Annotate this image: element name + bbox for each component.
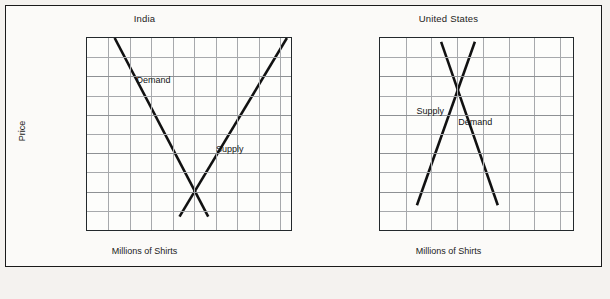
axis-label-x-india: Millions of Shirts bbox=[0, 246, 297, 256]
curve-label-demand-us: Demand bbox=[458, 117, 492, 127]
curve-label-demand-india: Demand bbox=[137, 75, 171, 85]
gridline-horizontal bbox=[87, 211, 291, 212]
gridline-horizontal bbox=[380, 96, 573, 97]
gridline-horizontal bbox=[380, 153, 573, 154]
gridline-horizontal bbox=[87, 153, 291, 154]
chart-panel-india: India $10$20$30$40$504008001,2001,600Dem… bbox=[6, 6, 311, 266]
gridline-horizontal bbox=[87, 57, 291, 58]
plot-area-united-states: $10$20$30$40$504008001,200SupplyDemand bbox=[379, 37, 574, 231]
chart-panel-united-states: United States $10$20$30$40$504008001,200… bbox=[306, 6, 603, 266]
curve-label-supply-india: Supply bbox=[216, 144, 244, 154]
plot-area-india: $10$20$30$40$504008001,2001,600DemandSup… bbox=[86, 37, 292, 231]
curve-supply bbox=[180, 38, 287, 217]
axis-label-price-india: Price bbox=[17, 111, 27, 151]
gridline-horizontal bbox=[380, 76, 573, 77]
chart-title-india: India bbox=[0, 13, 297, 24]
axis-label-x-united-states: Millions of Shirts bbox=[300, 246, 597, 256]
gridline-horizontal bbox=[87, 96, 291, 97]
gridline-horizontal bbox=[87, 115, 291, 116]
gridline-horizontal bbox=[380, 211, 573, 212]
gridline-horizontal bbox=[87, 134, 291, 135]
gridline-horizontal bbox=[380, 57, 573, 58]
gridline-horizontal bbox=[87, 192, 291, 193]
figure-frame: India $10$20$30$40$504008001,2001,600Dem… bbox=[5, 5, 602, 267]
gridline-horizontal bbox=[87, 172, 291, 173]
gridline-horizontal bbox=[380, 172, 573, 173]
gridline-horizontal bbox=[380, 134, 573, 135]
gridline-horizontal bbox=[87, 76, 291, 77]
gridline-horizontal bbox=[380, 192, 573, 193]
chart-title-united-states: United States bbox=[300, 13, 597, 24]
gridline-horizontal bbox=[380, 115, 573, 116]
curve-label-supply-us: Supply bbox=[416, 106, 444, 116]
